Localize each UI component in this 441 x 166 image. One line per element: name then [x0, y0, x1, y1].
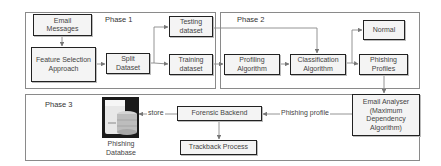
- forensic-backend-label: Forensic Backend: [191, 109, 247, 118]
- email-analyser-label: Email Analyser (Maximum Dependency Algor…: [363, 98, 409, 132]
- feature-selection-label: Feature Selection Approach: [36, 56, 91, 73]
- phishing-profiles-node: Phishing Profiles: [359, 54, 408, 75]
- profiling-algorithm-label: Profiling Algorithm: [237, 56, 267, 73]
- email-messages-label: Email Messages: [47, 17, 79, 34]
- trackback-process-node: Trackback Process: [180, 140, 257, 155]
- training-dataset-label: Training dataset: [178, 56, 203, 73]
- classification-algorithm-node: Classification Algorithm: [290, 54, 346, 75]
- forensic-backend-node: Forensic Backend: [177, 106, 262, 121]
- phishing-database-label: Phishing Database: [100, 140, 142, 157]
- profiling-algorithm-node: Profiling Algorithm: [224, 54, 280, 75]
- phishing-profile-edge-label: Phishing profile: [280, 109, 330, 116]
- testing-dataset-label: Testing dataset: [180, 18, 203, 35]
- split-dataset-label: Split Dataset: [116, 55, 140, 72]
- classification-algorithm-label: Classification Algorithm: [297, 56, 338, 73]
- feature-selection-node: Feature Selection Approach: [31, 47, 96, 82]
- testing-dataset-node: Testing dataset: [169, 16, 213, 37]
- store-edge-label: store: [147, 109, 165, 116]
- email-analyser-node: Email Analyser (Maximum Dependency Algor…: [352, 94, 420, 136]
- database-server-icon: [102, 97, 139, 138]
- email-messages-node: Email Messages: [33, 14, 92, 36]
- training-dataset-node: Training dataset: [169, 54, 213, 75]
- normal-label: Normal: [373, 26, 396, 35]
- split-dataset-node: Split Dataset: [106, 53, 150, 74]
- normal-node: Normal: [363, 20, 405, 40]
- phishing-profiles-label: Phishing Profiles: [370, 56, 397, 73]
- trackback-process-label: Trackback Process: [189, 143, 248, 152]
